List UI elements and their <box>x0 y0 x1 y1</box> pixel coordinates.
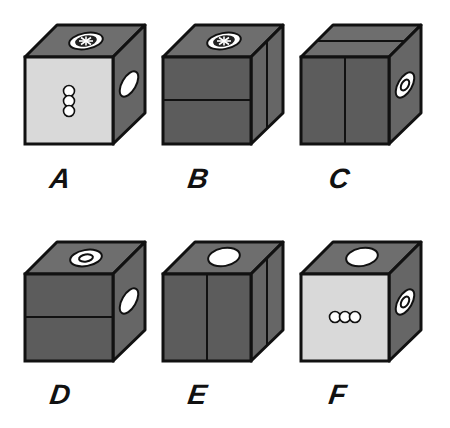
option-label-d: D <box>48 381 72 409</box>
cube-b-drawing <box>156 18 286 148</box>
option-label-e: E <box>186 381 209 409</box>
cube-option-a[interactable] <box>18 18 148 148</box>
option-label-a: A <box>48 165 72 193</box>
option-label-f: F <box>327 381 348 409</box>
cube-option-e[interactable] <box>156 235 286 365</box>
cube-option-d[interactable] <box>18 235 148 365</box>
cube-option-c[interactable] <box>294 18 424 148</box>
cube-e-drawing <box>156 235 286 365</box>
cube-c-drawing <box>294 18 424 148</box>
cube-option-f[interactable] <box>294 235 424 365</box>
cube-option-b[interactable] <box>156 18 286 148</box>
cube-d-drawing <box>18 235 148 365</box>
cube-f-drawing <box>294 235 424 365</box>
three-circles-vertical-icon <box>64 86 75 117</box>
option-label-b: B <box>186 165 210 193</box>
option-label-c: C <box>327 165 351 193</box>
three-circles-horizontal-icon <box>330 312 361 323</box>
cube-a-drawing <box>18 18 148 148</box>
